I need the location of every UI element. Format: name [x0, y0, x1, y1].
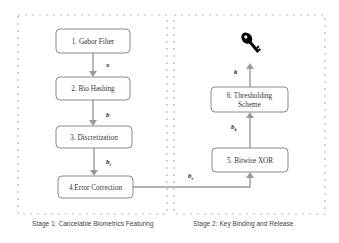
edge-label-k: k: [234, 68, 238, 76]
edge-label-b-i: bi: [106, 158, 112, 167]
node-error-correction-label: 4.Error Correction: [69, 184, 122, 192]
edge-label-b-k: bk: [231, 123, 238, 132]
node-discretization: 3. Discretization: [56, 126, 132, 148]
edge-gabor-to-biohash: [89, 53, 97, 77]
node-bio-hashing: 2. Bio Hashing: [56, 77, 130, 100]
node-bitwise-xor: 5. Bitwise XOR: [212, 148, 288, 172]
edge-thresholding-to-key: [246, 63, 254, 87]
node-bitwise-xor-label: 5. Bitwise XOR: [227, 157, 273, 165]
node-gabor-filter: 1. Gabor Filter: [56, 29, 130, 53]
edge-biohash-to-discretization: [89, 100, 97, 126]
edge-ec-to-xor: [133, 172, 254, 187]
stage1-caption: Stage 1: Cancelable Biometrics Featuring: [32, 220, 154, 228]
node-error-correction: 4.Error Correction: [58, 176, 133, 198]
stage2-caption: Stage 2: Key Binding and Release: [193, 220, 294, 228]
key-icon: [239, 30, 262, 55]
edge-xor-to-thresholding: [246, 112, 254, 148]
diagram-canvas: 1. Gabor Filter 2. Bio Hashing 3. Discre…: [0, 0, 339, 243]
edge-label-b: b: [106, 111, 110, 119]
node-bio-hashing-label: 2. Bio Hashing: [71, 85, 115, 93]
edge-label-x: x: [105, 61, 110, 69]
edge-label-b-r: br: [188, 172, 194, 181]
node-thresholding-label-line1: 6. Thresholding: [227, 92, 273, 100]
edge-discretization-to-ec: [90, 148, 98, 176]
node-gabor-filter-label: 1. Gabor Filter: [72, 38, 115, 46]
node-thresholding-scheme: 6. Thresholding Scheme: [211, 87, 288, 112]
node-discretization-label: 3. Discretization: [70, 134, 118, 142]
node-thresholding-label-line2: Scheme: [238, 101, 261, 109]
